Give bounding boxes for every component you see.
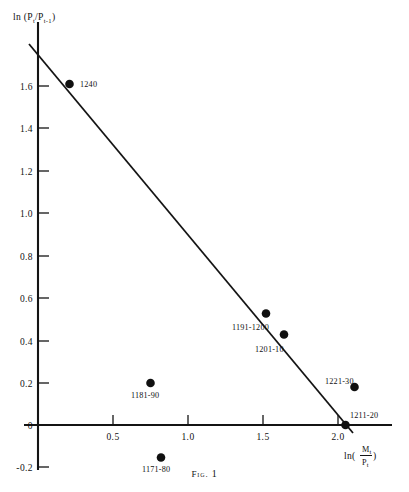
y-tick-label: 0.2 bbox=[20, 379, 33, 389]
svg-text:Mt: Mt bbox=[362, 445, 372, 455]
x-tick-label: 1.5 bbox=[256, 432, 269, 442]
x-axis-tick-labels: 0.5 1.0 1.5 2.0 bbox=[106, 432, 344, 442]
data-point bbox=[280, 330, 289, 339]
data-point-label: 1211-20 bbox=[350, 411, 378, 420]
data-point-labels: 1240 1181-90 1171-80 1191-1200 1201-10 1… bbox=[80, 80, 378, 474]
y-axis-title-close: ) bbox=[52, 11, 56, 23]
x-axis-title-numerator-sub: t bbox=[370, 448, 372, 455]
data-point bbox=[146, 379, 155, 388]
figure-caption-number: 1 bbox=[212, 468, 218, 479]
y-tick-label: 1.0 bbox=[20, 209, 33, 219]
figure-caption-prefix: Fig. bbox=[191, 469, 208, 479]
figure-caption: Fig. 1 bbox=[0, 468, 409, 479]
data-point bbox=[65, 80, 74, 89]
y-tick-label: 0.6 bbox=[20, 294, 33, 304]
y-axis-ticks bbox=[38, 86, 49, 467]
data-point-label: 1240 bbox=[80, 80, 97, 89]
data-point-label: 1191-1200 bbox=[232, 323, 269, 332]
scatter-plot: 1.6 1.4 1.2 1.0 0.8 0.6 0.4 0.2 0 -0.2 0… bbox=[0, 0, 409, 492]
x-tick-label: 0.5 bbox=[106, 432, 119, 442]
y-tick-label: 1.4 bbox=[20, 124, 33, 134]
y-axis-title-func: ln ( bbox=[13, 11, 27, 23]
x-tick-label: 2.0 bbox=[331, 432, 344, 442]
data-point bbox=[157, 453, 166, 462]
y-axis-tick-labels: 1.6 1.4 1.2 1.0 0.8 0.6 0.4 0.2 0 -0.2 bbox=[16, 82, 33, 473]
y-axis-title-denominator-sub: t-1 bbox=[44, 17, 52, 24]
data-point-label: 1181-90 bbox=[131, 391, 159, 400]
data-point-label: 1201-10 bbox=[255, 345, 284, 354]
y-tick-label: 0.8 bbox=[20, 252, 33, 262]
x-axis-title: ln( Mt Pt ) bbox=[344, 445, 377, 468]
svg-text:): ) bbox=[373, 450, 377, 462]
regression-line bbox=[29, 44, 353, 433]
x-tick-label: 1.0 bbox=[181, 432, 194, 442]
y-tick-label: 0.4 bbox=[20, 337, 33, 347]
data-point-label: 1221-30 bbox=[325, 377, 354, 386]
x-axis-title-func: ln( bbox=[344, 450, 356, 462]
x-axis-ticks bbox=[113, 415, 338, 425]
svg-text:Pt: Pt bbox=[362, 458, 369, 468]
svg-text:ln (Pt/Pt-1): ln (Pt/Pt-1) bbox=[13, 11, 55, 24]
data-point bbox=[341, 421, 350, 430]
data-point bbox=[262, 309, 271, 318]
y-tick-label-zero: 0 bbox=[28, 421, 33, 431]
y-tick-label: 1.6 bbox=[20, 82, 33, 92]
y-axis-title: ln (Pt/Pt-1) bbox=[13, 11, 55, 24]
figure-1: 1.6 1.4 1.2 1.0 0.8 0.6 0.4 0.2 0 -0.2 0… bbox=[0, 0, 409, 492]
svg-text:ln(: ln( bbox=[344, 450, 356, 462]
y-tick-label: 1.2 bbox=[20, 167, 33, 177]
x-axis-title-close: ) bbox=[373, 450, 377, 462]
data-points bbox=[65, 80, 359, 462]
